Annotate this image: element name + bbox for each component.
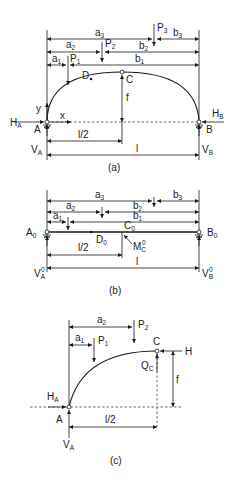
label-p2: P2 [105, 38, 116, 50]
label-ha-c: HA [47, 391, 59, 403]
label-d: D [82, 70, 89, 81]
label-va0: VA0 [34, 266, 46, 280]
label-half-span-c: l/2 [105, 414, 116, 425]
moment-mc0-pointer [124, 235, 132, 244]
crown-hinge-c [120, 70, 124, 74]
label-b3: b3 [173, 27, 183, 39]
label-vb0: VB0 [202, 266, 213, 280]
label-a0: A0 [26, 227, 37, 239]
panel-c-half-arch: a2 P2 a1 P1 C H QC f HA A VA l/2 (c) [30, 314, 192, 466]
dimension-a2-b2: a2 b2 [47, 39, 199, 52]
label-a1-c: a1 [75, 332, 85, 344]
label-vb: VB [202, 144, 213, 156]
label-p2-c: P2 [138, 319, 149, 331]
label-ha: HA [10, 117, 22, 129]
support-b [195, 120, 203, 136]
label-a: A [34, 124, 41, 135]
panel-b-simple-beam: a3 b3 a2 b2 a1 b1 D0 C0 MC0 A0 [26, 189, 218, 296]
caption-a: (a) [108, 162, 120, 173]
label-y: y [36, 103, 41, 114]
label-f-c: f [176, 374, 179, 385]
arch-curve [47, 72, 199, 122]
three-hinged-arch-figure: a3 b3 P3 a2 b2 P2 a1 b1 P1 [0, 0, 230, 483]
label-b0: B0 [207, 227, 218, 239]
label-p1: P1 [70, 53, 81, 65]
label-a1: a1 [52, 53, 62, 65]
label-va: VA [31, 144, 43, 156]
label-f: f [126, 92, 129, 103]
label-qc: QC [141, 360, 154, 372]
label-h: H [185, 346, 192, 357]
label-x: x [60, 110, 65, 121]
panel-a-arch: a3 b3 P3 a2 b2 P2 a1 b1 P1 [10, 22, 224, 173]
label-a-c: A [56, 414, 63, 425]
label-b3-b: b3 [173, 189, 183, 201]
label-p1-c: P1 [98, 335, 109, 347]
label-half-span: l/2 [78, 129, 89, 140]
point-d0 [90, 231, 93, 234]
load-p2: P2 [102, 38, 116, 62]
label-c: C [126, 74, 133, 85]
label-a2-c: a2 [97, 314, 107, 326]
label-b2: b2 [139, 40, 149, 52]
label-a3: a3 [95, 27, 105, 39]
label-a2: a2 [66, 39, 76, 51]
label-span: l [136, 143, 138, 154]
label-c-c: C [153, 336, 160, 347]
label-hb: HB [212, 108, 224, 120]
caption-c: (c) [110, 455, 122, 466]
label-b1: b1 [135, 53, 145, 65]
load-p3: P3 [154, 22, 168, 46]
label-d0: D0 [96, 234, 107, 246]
label-va-c: VA [63, 439, 75, 451]
label-b: B [206, 124, 213, 135]
label-half-span-b: l/2 [78, 242, 89, 253]
label-mc0: MC0 [133, 239, 146, 253]
label-p3: P3 [157, 22, 168, 34]
support-a-hinge-c [67, 405, 71, 409]
label-span-b: l [136, 256, 138, 267]
caption-b: (b) [109, 285, 121, 296]
crown-hinge-c-panel [155, 349, 159, 353]
point-d [90, 78, 93, 81]
label-a2-b: a2 [66, 200, 76, 212]
dimension-a3-b3: a3 b3 [47, 27, 199, 39]
label-a3-b: a3 [95, 189, 105, 201]
